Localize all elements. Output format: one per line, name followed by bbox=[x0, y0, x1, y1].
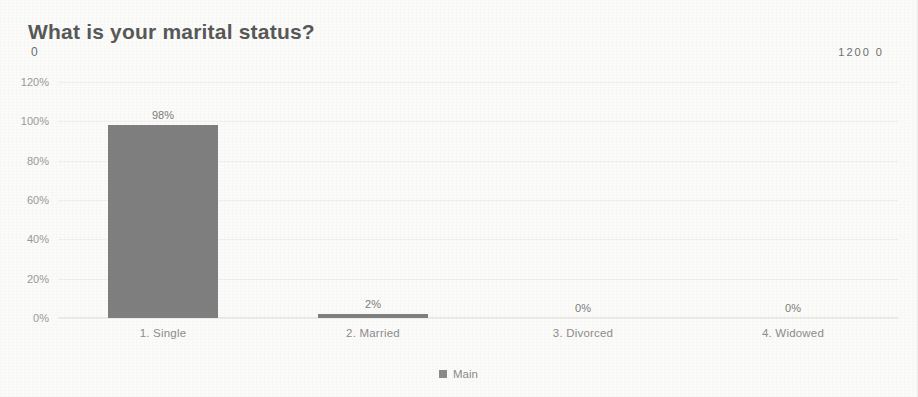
x-axis-category-label: 2. Married bbox=[268, 327, 478, 339]
bar[interactable] bbox=[108, 125, 218, 318]
bar-group: 0% bbox=[478, 82, 688, 318]
y-axis-tick-label: 60% bbox=[27, 194, 49, 206]
bar[interactable] bbox=[318, 314, 428, 318]
page-title: What is your marital status? bbox=[28, 20, 315, 44]
plot-area: 0%20%40%60%80%100%120% 98%2%0%0% bbox=[58, 82, 898, 318]
chart-screenshot: What is your marital status? 0 1200 0 0%… bbox=[0, 0, 918, 397]
bar-group: 98% bbox=[58, 82, 268, 318]
y-axis-tick-label: 100% bbox=[21, 115, 49, 127]
x-axis-category-label: 1. Single bbox=[58, 327, 268, 339]
bar-data-label: 2% bbox=[365, 298, 381, 310]
bar-data-label: 98% bbox=[152, 109, 174, 121]
x-axis-category-label: 3. Divorced bbox=[478, 327, 688, 339]
legend-swatch-icon bbox=[439, 370, 447, 378]
bar-group: 0% bbox=[688, 82, 898, 318]
y-axis-tick-label: 80% bbox=[27, 155, 49, 167]
chart-legend: Main bbox=[0, 368, 917, 380]
y-axis-tick-label: 120% bbox=[21, 76, 49, 88]
bar-data-label: 0% bbox=[575, 302, 591, 314]
bar-group: 2% bbox=[268, 82, 478, 318]
x-axis-labels: 1. Single2. Married3. Divorced4. Widowed bbox=[58, 327, 898, 339]
y-axis-tick-label: 20% bbox=[27, 273, 49, 285]
gridline: 0% bbox=[58, 318, 898, 319]
corner-left-value: 0 bbox=[31, 45, 38, 59]
y-axis-tick-label: 40% bbox=[27, 233, 49, 245]
bar-series: 98%2%0%0% bbox=[58, 82, 898, 318]
legend-series-label: Main bbox=[453, 368, 478, 380]
y-axis-tick-label: 0% bbox=[33, 312, 49, 324]
corner-right-value: 1200 0 bbox=[838, 46, 884, 58]
bar-data-label: 0% bbox=[785, 302, 801, 314]
x-axis-category-label: 4. Widowed bbox=[688, 327, 898, 339]
